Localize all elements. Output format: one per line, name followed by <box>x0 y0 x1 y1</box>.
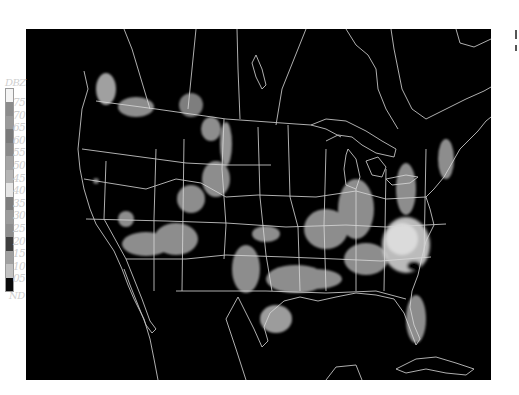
legend-level-label: 20 <box>13 235 25 248</box>
cropped-text-fragment <box>514 30 519 52</box>
legend-level-label: 15 <box>13 247 25 260</box>
legend-swatch <box>6 89 13 102</box>
legend-level-label: 65 <box>13 121 25 134</box>
legend-swatch <box>6 129 13 142</box>
legend-swatch <box>6 251 13 264</box>
legend-level-label: 60 <box>13 134 25 147</box>
legend-level-label: 10 <box>13 260 25 273</box>
legend-swatch <box>6 237 13 250</box>
legend-level-label: 75 <box>13 96 25 109</box>
legend-swatch <box>6 170 13 183</box>
legend-level-label: 05 <box>13 272 25 285</box>
legend-level-label: 25 <box>13 222 25 235</box>
legend-swatch <box>6 278 13 291</box>
legend-level-label: 30 <box>13 209 25 222</box>
precipitation-echoes <box>93 73 454 343</box>
legend-swatch <box>6 143 13 156</box>
legend-level-label: 40 <box>13 184 25 197</box>
map-boundaries <box>26 29 491 380</box>
dbz-legend: DBZ 757065605550454035302520151005 ND <box>2 77 38 307</box>
legend-swatch <box>6 102 13 115</box>
legend-no-data-label: ND <box>9 290 25 301</box>
legend-swatch <box>6 210 13 223</box>
legend-swatch <box>6 224 13 237</box>
legend-labels: 757065605550454035302520151005 <box>13 96 25 285</box>
legend-swatch <box>6 197 13 210</box>
legend-swatch <box>6 264 13 277</box>
radar-map <box>26 29 491 380</box>
legend-level-label: 55 <box>13 146 25 159</box>
legend-swatch <box>6 116 13 129</box>
legend-title: DBZ <box>5 77 26 88</box>
legend-level-label: 70 <box>13 109 25 122</box>
legend-swatch <box>6 183 13 196</box>
legend-level-label: 50 <box>13 159 25 172</box>
legend-level-label: 45 <box>13 172 25 185</box>
legend-swatch <box>6 156 13 169</box>
legend-level-label: 35 <box>13 197 25 210</box>
